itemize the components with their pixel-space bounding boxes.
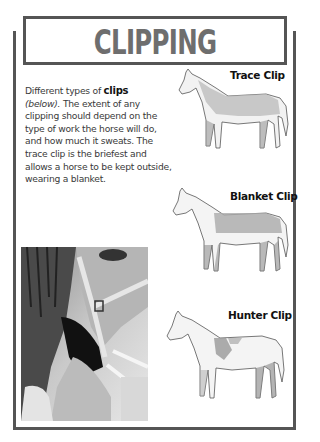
horse-hunter-clip-icon: [164, 308, 294, 408]
intro-prefix: Different types of: [25, 85, 104, 96]
intro-bold-term: clips: [104, 85, 129, 96]
caption-blanket-clip: Blanket Clip: [230, 190, 297, 202]
intro-rest: The extent of any clipping should depend…: [25, 98, 172, 185]
horse-and-person-photo: [21, 247, 148, 421]
caption-trace-clip: Trace Clip: [230, 69, 285, 81]
page-title: CLIPPING: [94, 25, 216, 59]
intro-paragraph: Different types of clips(below). The ext…: [25, 85, 175, 186]
title-banner: CLIPPING: [23, 16, 287, 65]
intro-italic: (below).: [25, 98, 60, 109]
caption-hunter-clip: Hunter Clip: [228, 309, 292, 321]
